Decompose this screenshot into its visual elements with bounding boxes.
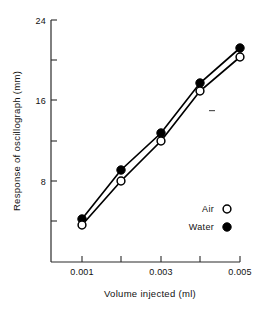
- data-point-air-4: [196, 87, 204, 95]
- data-point-air-1: [78, 221, 86, 229]
- data-point-air-3: [157, 137, 165, 145]
- x-tick-label-0.005: 0.005: [228, 267, 252, 277]
- data-point-air-2: [117, 177, 125, 185]
- chart-figure: 24 16 8 Response of oscillograph (mm) 0.…: [0, 0, 270, 313]
- y-tick-label-16: 16: [36, 96, 46, 106]
- y-tick-label-24: 24: [36, 16, 46, 26]
- data-point-air-5: [236, 53, 244, 61]
- y-axis-title: Response of oscillograph (mm): [11, 71, 22, 211]
- data-point-water-5: [236, 44, 244, 52]
- data-point-water-2: [117, 166, 125, 174]
- oscillograph-response-line-chart: 24 16 8 Response of oscillograph (mm) 0.…: [0, 0, 270, 313]
- x-axis-title: Volume injected (ml): [104, 288, 196, 299]
- legend-label-water: Water: [189, 222, 214, 232]
- x-tick-label-0.001: 0.001: [70, 267, 94, 277]
- data-point-water-4: [196, 79, 204, 87]
- legend-marker-air-open-circle-icon: [223, 205, 231, 213]
- y-tick-label-8: 8: [41, 177, 46, 187]
- scan-artifact-mark: [209, 110, 215, 111]
- legend-marker-water-filled-circle-icon: [223, 223, 231, 231]
- legend-label-air: Air: [202, 204, 214, 214]
- x-tick-label-0.003: 0.003: [149, 267, 173, 277]
